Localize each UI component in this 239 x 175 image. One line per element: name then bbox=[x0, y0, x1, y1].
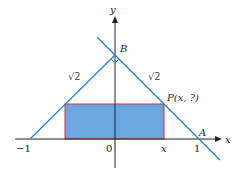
tick-one: 1 bbox=[194, 143, 200, 154]
tick-zero: 0 bbox=[106, 143, 112, 154]
x-axis-label: x bbox=[225, 134, 231, 145]
y-axis-arrow-icon bbox=[112, 16, 118, 23]
right-side-length-annotation: √2 bbox=[148, 71, 161, 82]
tick-neg-one: −1 bbox=[16, 143, 31, 154]
point-A-label: A bbox=[198, 127, 206, 138]
left-side-length-annotation: √2 bbox=[68, 71, 81, 82]
point-P-label: P(x, ?) bbox=[166, 92, 199, 103]
x-axis-arrow-icon bbox=[215, 136, 222, 142]
tick-x: x bbox=[161, 143, 167, 154]
point-B-label: B bbox=[119, 43, 127, 54]
y-axis-label: y bbox=[109, 4, 116, 15]
triangle-rectangle-diagram: y x B A P(x, ?) −1 0 x 1 √2 √2 bbox=[0, 0, 239, 175]
